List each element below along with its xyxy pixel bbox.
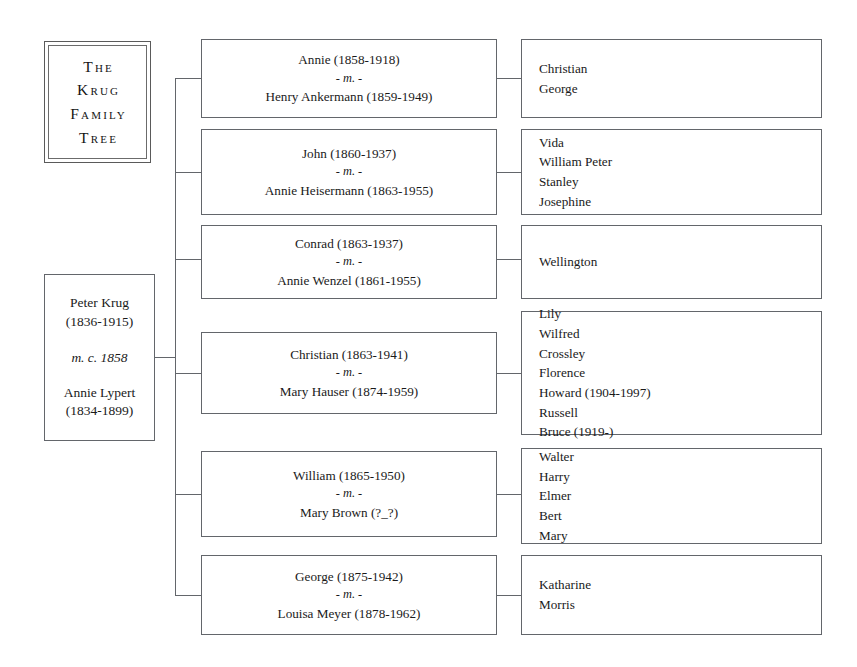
title-line-4: Tree: [77, 126, 118, 150]
couple-4-marriage-symbol: - m. -: [336, 364, 363, 382]
title-line-3: Family: [68, 102, 127, 126]
list-item: Vida: [539, 133, 821, 153]
couple-to-children-connector-5: [497, 494, 522, 495]
trunk-stub-row-3: [175, 259, 202, 260]
title-line-1: The: [81, 55, 114, 79]
couple-box-1: Annie (1858-1918) - m. - Henry Ankermann…: [201, 39, 497, 118]
children-box-1: Christian George: [521, 39, 822, 118]
root-person1-dates: (1836-1915): [66, 313, 134, 332]
couple-3-marriage-symbol: - m. -: [336, 253, 363, 271]
list-item: Florence: [539, 363, 821, 383]
list-item: Morris: [539, 595, 821, 615]
children-box-2: Vida William Peter Stanley Josephine: [521, 129, 822, 215]
list-item: Elmer: [539, 486, 821, 506]
children-box-3: Wellington: [521, 225, 822, 299]
couple-2-spouse2: Annie Heisermann (1863-1955): [265, 181, 433, 200]
list-item: Walter: [539, 447, 821, 467]
list-item: Wilfred: [539, 324, 821, 344]
list-item: Christian: [539, 59, 821, 79]
couple-5-spouse2: Mary Brown (?_?): [300, 503, 398, 522]
couple-4-spouse1: Christian (1863-1941): [290, 345, 408, 364]
list-item: Crossley: [539, 344, 821, 364]
list-item: William Peter: [539, 152, 821, 172]
trunk-stub-row-4: [175, 373, 202, 374]
children-box-5: Walter Harry Elmer Bert Mary: [521, 448, 822, 544]
couple-1-spouse1: Annie (1858-1918): [298, 50, 399, 69]
couple-box-2: John (1860-1937) - m. - Annie Heisermann…: [201, 129, 497, 215]
couple-4-spouse2: Mary Hauser (1874-1959): [280, 382, 418, 401]
list-item: George: [539, 79, 821, 99]
couple-5-spouse1: William (1865-1950): [293, 466, 405, 485]
list-item: Bert: [539, 506, 821, 526]
couple-to-children-connector-6: [497, 595, 522, 596]
sibling-trunk-line: [175, 78, 176, 596]
couple-to-children-connector-3: [497, 259, 522, 260]
couple-to-children-connector-4: [497, 373, 522, 374]
list-item: Katharine: [539, 575, 821, 595]
couple-5-marriage-symbol: - m. -: [336, 485, 363, 503]
title-line-2: Krug: [75, 78, 120, 102]
root-marriage-note: m. c. 1858: [71, 350, 127, 366]
list-item: Wellington: [539, 252, 821, 272]
root-couple-box: Peter Krug (1836-1915) m. c. 1858 Annie …: [44, 274, 155, 441]
trunk-stub-row-5: [175, 494, 202, 495]
root-to-trunk-connector: [155, 357, 176, 358]
children-box-6: Katharine Morris: [521, 555, 822, 635]
couple-3-spouse1: Conrad (1863-1937): [295, 234, 403, 253]
couple-2-marriage-symbol: - m. -: [336, 163, 363, 181]
list-item: Howard (1904-1997): [539, 383, 821, 403]
trunk-stub-row-6: [175, 595, 202, 596]
list-item: Bruce (1919-): [539, 422, 821, 442]
couple-3-spouse2: Annie Wenzel (1861-1955): [277, 271, 421, 290]
title-plaque-inner-border: The Krug Family Tree: [48, 45, 147, 159]
couple-box-5: William (1865-1950) - m. - Mary Brown (?…: [201, 451, 497, 537]
couple-2-spouse1: John (1860-1937): [302, 144, 396, 163]
list-item: Stanley: [539, 172, 821, 192]
trunk-stub-row-2: [175, 172, 202, 173]
couple-box-4: Christian (1863-1941) - m. - Mary Hauser…: [201, 332, 497, 414]
couple-box-6: George (1875-1942) - m. - Louisa Meyer (…: [201, 555, 497, 635]
list-item: Lily: [539, 304, 821, 324]
couple-6-spouse2: Louisa Meyer (1878-1962): [278, 604, 421, 623]
couple-6-spouse1: George (1875-1942): [295, 567, 403, 586]
children-box-4: Lily Wilfred Crossley Florence Howard (1…: [521, 311, 822, 435]
couple-6-marriage-symbol: - m. -: [336, 586, 363, 604]
couple-box-3: Conrad (1863-1937) - m. - Annie Wenzel (…: [201, 225, 497, 299]
family-tree-chart: The Krug Family Tree Peter Krug (1836-19…: [0, 0, 857, 667]
title-plaque: The Krug Family Tree: [44, 41, 151, 163]
list-item: Harry: [539, 467, 821, 487]
list-item: Josephine: [539, 192, 821, 212]
couple-to-children-connector-1: [497, 78, 522, 79]
couple-to-children-connector-2: [497, 172, 522, 173]
couple-1-marriage-symbol: - m. -: [336, 70, 363, 88]
list-item: Mary: [539, 526, 821, 546]
root-person2-name: Annie Lypert: [64, 384, 136, 403]
trunk-stub-row-1: [175, 78, 202, 79]
couple-1-spouse2: Henry Ankermann (1859-1949): [265, 87, 432, 106]
root-person1-name: Peter Krug: [70, 294, 129, 313]
list-item: Russell: [539, 403, 821, 423]
root-person2-dates: (1834-1899): [66, 402, 134, 421]
